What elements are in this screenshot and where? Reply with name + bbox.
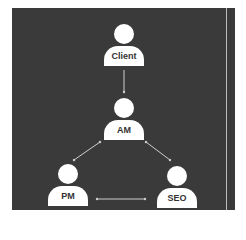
- person-head-icon: [167, 166, 187, 186]
- edge-am-seo: [146, 142, 170, 160]
- node-pm: PM: [48, 164, 88, 208]
- edge-am-pm: [74, 142, 100, 160]
- node-am: AM: [104, 98, 144, 142]
- node-label: PM: [48, 186, 88, 206]
- person-head-icon: [114, 98, 134, 118]
- node-client: Client: [104, 24, 144, 68]
- node-label: SEO: [157, 188, 197, 208]
- node-label: AM: [104, 120, 144, 140]
- node-seo: SEO: [157, 166, 197, 210]
- person-head-icon: [58, 164, 78, 184]
- person-head-icon: [114, 24, 134, 44]
- node-label: Client: [104, 46, 144, 66]
